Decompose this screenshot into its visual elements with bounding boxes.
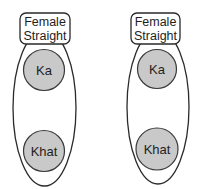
node-ka-right-label: Ka — [149, 62, 166, 77]
group-left: Female Straight Ka Khat — [13, 13, 76, 186]
group-left-label-line2: Straight — [23, 29, 67, 43]
group-left-label-line1: Female — [24, 15, 66, 29]
diagram-canvas: Female Straight Ka Khat Female Straight … — [0, 0, 198, 189]
group-right-label-line2: Straight — [134, 29, 178, 43]
group-right: Female Straight Ka Khat — [127, 13, 189, 184]
node-ka-left-label: Ka — [36, 63, 53, 78]
node-khat-right-label: Khat — [144, 142, 171, 157]
node-khat-left-label: Khat — [31, 144, 58, 159]
group-right-label-line1: Female — [135, 15, 177, 29]
